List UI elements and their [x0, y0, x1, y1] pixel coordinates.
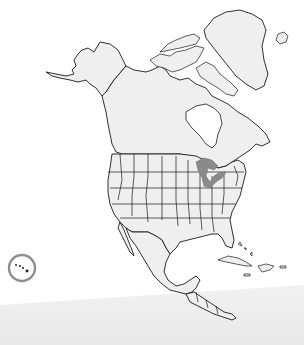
cuba: [218, 256, 252, 266]
puerto-rico: [280, 266, 286, 268]
map-svg: [0, 0, 304, 345]
north-america-map: [0, 0, 304, 345]
iceland: [276, 32, 288, 44]
bahamas: [238, 242, 252, 256]
hispaniola: [258, 264, 274, 272]
hawaii-islands: [15, 264, 28, 272]
central-america: [186, 292, 236, 320]
jamaica: [244, 274, 250, 276]
